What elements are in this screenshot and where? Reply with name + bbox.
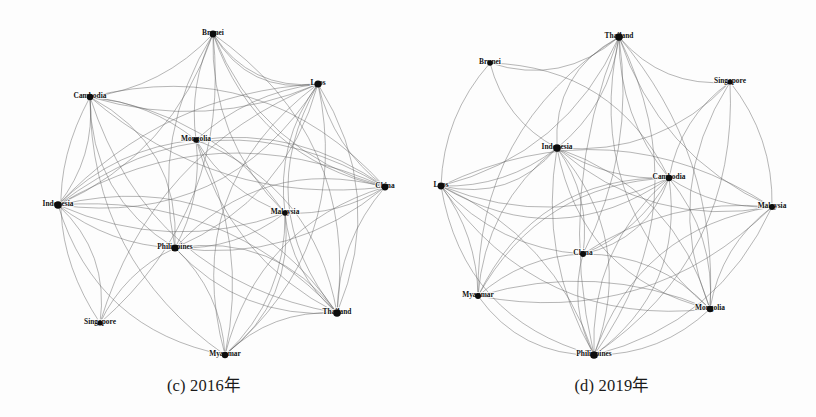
graph-edge [557,82,730,149]
graph-edge [619,37,772,207]
graph-edge [557,37,619,148]
graph-node-singapore[interactable]: Singapore [84,317,117,326]
graph-edge [318,84,385,187]
graph-edge [594,37,655,355]
graph-edge [478,296,594,355]
graph-edge [594,178,671,355]
graph-edge [213,34,318,85]
graph-edge [213,34,385,187]
graph-edge [175,248,225,355]
graph-node-china[interactable]: China [573,248,593,257]
node-marker[interactable] [553,144,561,152]
node-marker[interactable] [475,293,481,299]
graph-edge [175,84,318,248]
node-marker[interactable] [87,94,93,100]
graph-node-laos[interactable]: Laos [433,180,448,190]
node-marker[interactable] [727,79,732,84]
node-marker[interactable] [487,60,493,66]
graph-edge [100,84,318,323]
graph-node-malaysia[interactable]: Malaysia [271,207,300,216]
graph-edge [58,205,225,355]
graph-edge [594,207,772,355]
graph-edge [285,187,385,213]
graph-node-indonesia[interactable]: Indonesia [43,199,74,209]
node-marker[interactable] [769,204,775,210]
graph-edge [441,37,619,186]
graph-node-singapore[interactable]: Singapore [714,76,747,85]
graph-node-philippines[interactable]: Philippines [157,242,192,252]
graph-edge [490,37,619,70]
graph-node-cambodia[interactable]: Cambodia [653,172,686,181]
graph-node-malaysia[interactable]: Malaysia [758,201,787,210]
graph-edge [557,37,619,148]
node-marker[interactable] [615,33,623,41]
graph-node-brunei[interactable]: Brunei [202,28,224,38]
graph-edge [594,207,772,355]
node-marker[interactable] [54,201,62,209]
graph-edge [580,37,619,355]
graph-node-mongolia[interactable]: Mongolia [181,134,211,143]
graph-edge [225,213,285,355]
node-marker[interactable] [382,184,389,191]
graph-edge [594,82,730,355]
panel-2019: ThailandBruneiSingaporeIndonesiaCambodia… [408,0,816,417]
graph-edge [196,140,337,313]
node-marker[interactable] [333,309,341,317]
graph-edge [196,140,337,313]
node-layer: ThailandBruneiSingaporeIndonesiaCambodia… [433,31,786,359]
graph-edge [90,97,285,213]
graph-edge [90,34,213,97]
node-marker[interactable] [210,31,217,38]
node-marker[interactable] [171,244,178,251]
graph-edge [583,178,669,254]
graph-edge [58,205,102,323]
graph-edge [90,97,175,248]
graph-node-laos[interactable]: Laos [310,78,325,88]
node-marker[interactable] [590,351,598,359]
graph-node-mongolia[interactable]: Mongolia [695,303,725,312]
graph-edge [583,178,669,254]
panel-2016: BruneiCambodiaLaosMongoliaChinaIndonesia… [0,0,408,417]
node-marker[interactable] [707,306,713,312]
node-marker[interactable] [97,320,102,325]
graph-node-indonesia[interactable]: Indonesia [542,142,573,152]
graph-edge [213,34,385,187]
graph-edge [478,281,710,309]
graph-edge [58,34,213,205]
graph-edge [61,97,100,323]
graph-edge [225,213,286,355]
panel-caption-2019: (d) 2019年 [408,372,816,396]
graph-edge [90,86,385,187]
network-figure: BruneiCambodiaLaosMongoliaChinaIndonesia… [0,0,816,417]
graph-edge [90,97,385,190]
graph-node-myanmar[interactable]: Myanmar [209,349,241,358]
graph-edge [225,187,385,355]
graph-edge [175,248,337,314]
node-marker[interactable] [282,210,288,216]
node-marker[interactable] [666,175,672,181]
graph-edge [441,186,594,355]
graph-edge [478,178,669,296]
graph-node-thailand[interactable]: Thailand [605,31,635,41]
graph-edge [490,63,557,148]
node-marker[interactable] [580,251,586,257]
graph-edge [478,207,772,303]
graph-node-china[interactable]: China [375,181,395,191]
node-marker[interactable] [438,183,445,190]
graph-node-philippines[interactable]: Philippines [576,349,611,359]
graph-node-cambodia[interactable]: Cambodia [74,91,107,100]
network-graph-2016: BruneiCambodiaLaosMongoliaChinaIndonesia… [0,0,408,380]
node-marker[interactable] [222,352,228,358]
graph-edge [225,313,337,355]
graph-node-brunei[interactable]: Brunei [479,57,501,66]
graph-node-myanmar[interactable]: Myanmar [462,290,494,299]
graph-edge [441,186,594,355]
node-marker[interactable] [193,137,199,143]
network-graph-2019: ThailandBruneiSingaporeIndonesiaCambodia… [408,0,816,380]
graph-edge [478,178,669,296]
node-marker[interactable] [314,80,321,87]
graph-node-thailand[interactable]: Thailand [323,307,353,317]
node-layer: BruneiCambodiaLaosMongoliaChinaIndonesia… [43,28,395,358]
graph-edge [90,97,175,248]
panel-caption-2016: (c) 2016年 [0,372,408,396]
